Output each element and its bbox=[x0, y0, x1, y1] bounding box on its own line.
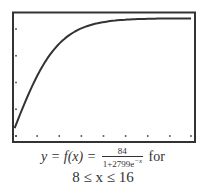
caption-lhs: y = f(x) = bbox=[41, 149, 96, 164]
x-tick-dot bbox=[169, 135, 171, 137]
y-tick-dot bbox=[15, 108, 17, 110]
for-label: for bbox=[149, 149, 165, 164]
y-tick-dot bbox=[15, 55, 17, 57]
function-caption: y = f(x) = 84 1+2799e−x for bbox=[0, 147, 206, 169]
x-tick-dot bbox=[147, 135, 149, 137]
fraction: 84 1+2799e−x bbox=[102, 147, 143, 169]
y-tick-dot bbox=[15, 135, 17, 137]
denominator-exponent: −x bbox=[134, 157, 142, 165]
x-tick-dot bbox=[190, 135, 192, 137]
domain-caption: 8 ≤ x ≤ 16 bbox=[0, 169, 206, 189]
calculator-graph bbox=[0, 0, 206, 145]
x-tick-dot bbox=[81, 135, 83, 137]
x-tick-dot bbox=[103, 135, 105, 137]
x-tick-dot bbox=[125, 135, 127, 137]
fraction-numerator: 84 bbox=[102, 147, 143, 157]
x-tick-dot bbox=[36, 135, 38, 137]
y-tick-dot bbox=[15, 82, 17, 84]
x-tick-dot bbox=[58, 135, 60, 137]
y-tick-dot bbox=[15, 28, 17, 30]
fraction-denominator: 1+2799e−x bbox=[102, 157, 143, 169]
denominator-base: 1+2799e bbox=[103, 159, 135, 169]
graph-frame bbox=[13, 13, 195, 143]
